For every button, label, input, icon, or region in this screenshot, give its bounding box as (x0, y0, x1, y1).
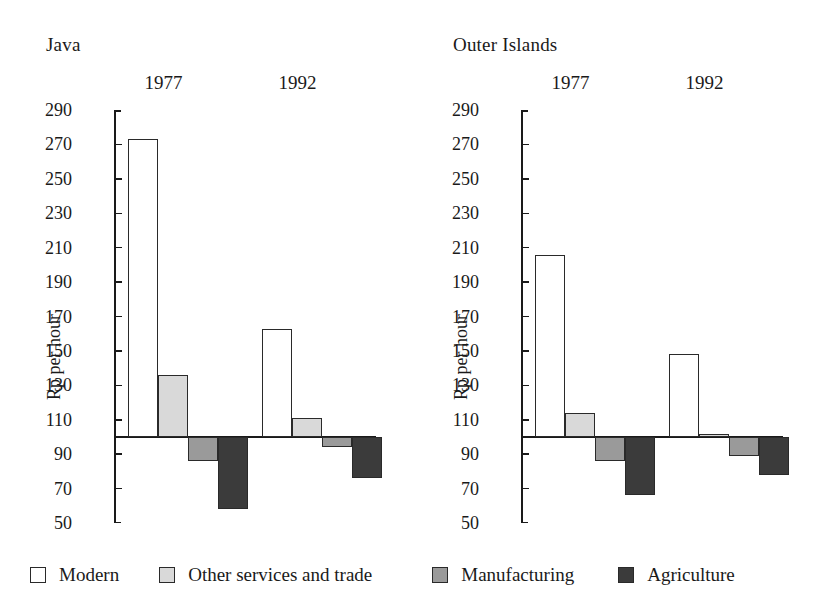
y-axis-tick (523, 281, 529, 283)
y-axis-tick (116, 178, 122, 180)
group-label-1977: 1977 (552, 72, 590, 94)
y-axis-tick (116, 247, 122, 249)
legend-item-agriculture[interactable]: Agriculture (618, 564, 735, 586)
y-axis-tick-label: 250 (452, 170, 479, 188)
bar-java-1977-modern (128, 139, 158, 437)
bar-java-1977-agriculture (218, 437, 248, 509)
y-axis-tick-label: 230 (45, 204, 72, 222)
legend-swatch-icon (30, 567, 46, 583)
y-axis-tick-label: 190 (45, 273, 72, 291)
y-axis-tick-label: 130 (45, 376, 72, 394)
bar-outer-islands-1992-other-services-and-trade (699, 434, 729, 437)
y-axis-tick-label: 130 (452, 376, 479, 394)
group-label-1992: 1992 (279, 72, 317, 94)
y-axis-tick-label: 150 (452, 342, 479, 360)
panel-java: Java Rp per hour 29027025023021019017015… (0, 0, 414, 555)
y-axis-tick-label: 170 (45, 308, 72, 326)
axis-cap (521, 522, 528, 524)
axis-cap (114, 522, 121, 524)
legend-swatch-icon (618, 567, 634, 583)
y-axis-tick-label: 270 (452, 135, 479, 153)
group-label-1977: 1977 (145, 72, 183, 94)
bar-java-1992-manufacturing (322, 437, 352, 447)
y-axis-tick (116, 350, 122, 352)
y-axis-tick (523, 247, 529, 249)
y-axis-tick-label: 210 (452, 239, 479, 257)
y-axis-tick-label: 270 (45, 135, 72, 153)
y-axis-tick-label: 210 (45, 239, 72, 257)
y-axis-tick (116, 213, 122, 215)
panel-title: Java (46, 34, 81, 56)
y-axis-tick-label: 70 (461, 480, 479, 498)
figure-root: Java Rp per hour 29027025023021019017015… (0, 0, 829, 609)
y-axis-tick (116, 385, 122, 387)
bar-outer-islands-1992-manufacturing (729, 437, 759, 456)
y-axis-tick (523, 385, 529, 387)
legend-row: ModernOther services and tradeManufactur… (30, 564, 735, 586)
legend-item-manufacturing[interactable]: Manufacturing (432, 564, 574, 586)
plot-area-outer-islands: 2902702502302101901701501301109070501977… (483, 100, 783, 530)
legend-swatch-icon (159, 567, 175, 583)
y-axis-tick-label: 90 (54, 445, 72, 463)
y-axis-tick-label: 230 (452, 204, 479, 222)
y-axis-tick (116, 144, 122, 146)
y-axis-tick-label: 50 (54, 514, 72, 532)
y-axis-tick-label: 50 (461, 514, 479, 532)
y-axis-tick-label: 170 (452, 308, 479, 326)
bar-outer-islands-1977-modern (535, 255, 565, 437)
y-axis-tick (523, 350, 529, 352)
y-axis-tick-label: 90 (461, 445, 479, 463)
y-axis-tick-label: 110 (46, 411, 72, 429)
bar-java-1992-other-services-and-trade (292, 418, 322, 437)
y-axis-tick-label: 290 (452, 101, 479, 119)
bar-outer-islands-1977-manufacturing (595, 437, 625, 461)
y-axis-tick (116, 453, 122, 455)
y-axis-tick (523, 178, 529, 180)
y-axis-tick (523, 488, 529, 490)
legend-item-modern[interactable]: Modern (30, 564, 119, 586)
y-axis-tick (116, 488, 122, 490)
axis-cap (521, 110, 528, 112)
y-axis-tick (523, 316, 529, 318)
y-axis-tick-label: 190 (452, 273, 479, 291)
legend-label: Manufacturing (461, 564, 574, 586)
legend-label: Agriculture (647, 564, 735, 586)
y-axis-tick-label: 250 (45, 170, 72, 188)
bar-outer-islands-1992-modern (669, 354, 699, 437)
bar-outer-islands-1977-other-services-and-trade (565, 413, 595, 437)
bar-java-1992-agriculture (352, 437, 382, 478)
y-axis-tick (523, 419, 529, 421)
y-axis-tick (523, 144, 529, 146)
axis-cap (114, 110, 121, 112)
bar-java-1992-modern (262, 329, 292, 437)
bar-java-1977-other-services-and-trade (158, 375, 188, 437)
panel-outer-islands: Outer Islands Rp per hour 29027025023021… (415, 0, 829, 555)
y-axis-tick (116, 316, 122, 318)
group-label-1992: 1992 (686, 72, 724, 94)
panel-title: Outer Islands (453, 34, 557, 56)
bar-outer-islands-1977-agriculture (625, 437, 655, 496)
plot-area-java: 2902702502302101901701501301109070501977… (76, 100, 376, 530)
bar-outer-islands-1992-agriculture (759, 437, 789, 475)
y-axis-tick (116, 281, 122, 283)
legend-item-other-services-and-trade[interactable]: Other services and trade (159, 564, 372, 586)
bar-java-1977-manufacturing (188, 437, 218, 461)
legend-swatch-icon (432, 567, 448, 583)
y-axis-tick (523, 213, 529, 215)
y-axis-tick-label: 150 (45, 342, 72, 360)
y-axis-tick (116, 419, 122, 421)
y-axis-tick-label: 70 (54, 480, 72, 498)
legend-label: Other services and trade (188, 564, 372, 586)
legend-label: Modern (59, 564, 119, 586)
y-axis-tick (523, 453, 529, 455)
y-axis-tick-label: 290 (45, 101, 72, 119)
legend: ModernOther services and tradeManufactur… (0, 556, 829, 609)
y-axis-tick-label: 110 (453, 411, 479, 429)
